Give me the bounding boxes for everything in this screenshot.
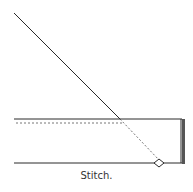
diagram-canvas: [0, 0, 193, 192]
strip-end-bar: [182, 119, 185, 164]
diagonal-stitch-line: [120, 119, 160, 161]
figure-caption: Stitch.: [0, 170, 193, 181]
diagonal-line: [14, 13, 120, 119]
corner-marker: [154, 159, 164, 167]
